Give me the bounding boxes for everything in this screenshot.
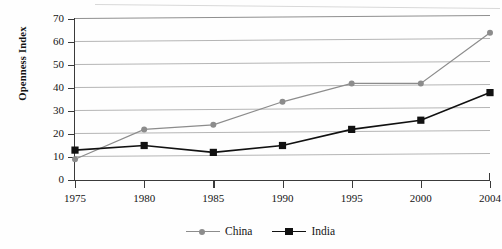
x-tick-mark-2004	[490, 181, 491, 188]
x-tick-label-1975: 1975	[52, 192, 98, 204]
y-tick-mark-0	[68, 180, 75, 181]
y-tick-label-0: 0	[30, 173, 64, 185]
x-tick-mark-1985	[213, 181, 214, 188]
y-tick-mark-60	[68, 42, 75, 43]
scan-artifact-line	[95, 4, 500, 9]
x-tick-label-1985: 1985	[190, 192, 236, 204]
x-tick-label-1995: 1995	[329, 192, 375, 204]
y-tick-mark-40	[68, 88, 75, 89]
x-tick-label-2004: 2004	[467, 192, 502, 204]
legend-label-china: China	[225, 225, 252, 237]
y-tick-label-50: 50	[30, 58, 64, 70]
y-tick-label-40: 40	[30, 81, 64, 93]
y-tick-mark-70	[68, 19, 75, 20]
legend-label-india: India	[311, 225, 335, 237]
square-marker	[272, 225, 306, 237]
y-tick-mark-50	[68, 65, 75, 66]
chart-legend: ChinaIndia	[186, 222, 386, 240]
gridline-70	[75, 15, 490, 19]
y-tick-label-60: 60	[30, 35, 64, 47]
x-axis-end-tick	[489, 173, 490, 181]
y-tick-mark-10	[68, 157, 75, 158]
gridline-30	[75, 107, 490, 111]
y-tick-label-20: 20	[30, 127, 64, 139]
y-tick-label-10: 10	[30, 150, 64, 162]
legend-item-china: China	[186, 225, 252, 237]
circle-marker	[186, 225, 220, 237]
plot-area	[75, 18, 490, 180]
x-tick-mark-1995	[352, 181, 353, 188]
gridline-20	[75, 130, 490, 134]
y-tick-mark-30	[68, 111, 75, 112]
chart-page: Openness Index 010203040506070 197519801…	[0, 0, 502, 249]
x-tick-label-1980: 1980	[121, 192, 167, 204]
gridline-50	[75, 61, 490, 65]
gridline-10	[75, 153, 490, 157]
x-tick-label-2000: 2000	[398, 192, 444, 204]
legend-item-india: India	[272, 225, 335, 237]
x-tick-mark-1975	[75, 181, 76, 188]
x-tick-mark-1980	[144, 181, 145, 188]
y-tick-label-30: 30	[30, 104, 64, 116]
y-tick-mark-20	[68, 134, 75, 135]
x-tick-label-1990: 1990	[260, 192, 306, 204]
gridline-40	[75, 84, 490, 88]
gridline-60	[75, 38, 490, 42]
y-axis-title: Openness Index	[17, 4, 28, 124]
x-tick-mark-2000	[421, 181, 422, 188]
x-tick-mark-1990	[283, 181, 284, 188]
y-tick-label-70: 70	[30, 12, 64, 24]
